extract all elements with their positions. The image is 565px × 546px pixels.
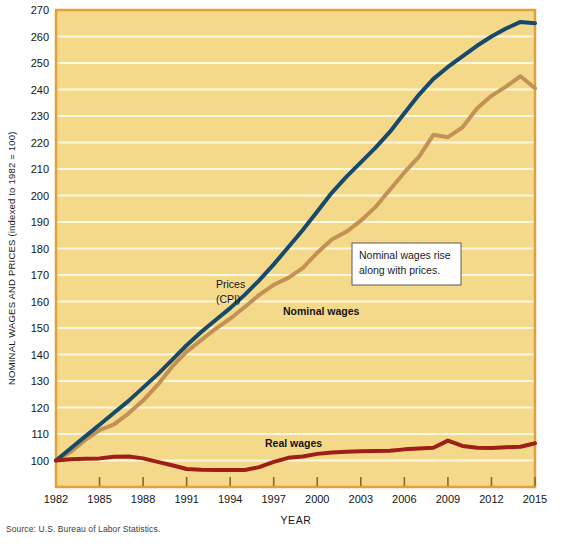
x-axis-title: YEAR [281,514,312,526]
callout-text-line2: along with prices. [359,264,440,276]
y-tick-label-180: 180 [31,243,49,255]
source-note: Source: U.S. Bureau of Labor Statistics. [6,524,160,534]
chart-figure: 1001101201301401501601701801902002102202… [0,0,565,546]
x-tick-label-1994: 1994 [218,493,242,505]
x-tick-label-1988: 1988 [131,493,155,505]
y-tick-label-240: 240 [31,84,49,96]
y-tick-label-160: 160 [31,296,49,308]
y-tick-label-170: 170 [31,269,49,281]
real-wages-series-label: Real wages [265,437,322,449]
x-tick-label-1997: 1997 [261,493,285,505]
y-tick-label-130: 130 [31,375,49,387]
y-tick-label-270: 270 [31,4,49,16]
x-tick-label-2015: 2015 [523,493,547,505]
callout-text-line1: Nominal wages rise [359,249,451,261]
x-axis-tick-labels: 1982198519881991199419972000200320062009… [44,493,547,505]
y-tick-label-190: 190 [31,216,49,228]
y-tick-label-210: 210 [31,163,49,175]
y-tick-label-220: 220 [31,137,49,149]
y-tick-label-250: 250 [31,57,49,69]
x-tick-label-1991: 1991 [174,493,198,505]
x-tick-label-2009: 2009 [436,493,460,505]
prices-series-label-line2: (CPI) [216,293,241,305]
x-tick-label-2006: 2006 [392,493,416,505]
prices-series-label-line1: Prices [216,278,245,290]
wages-prices-line-chart: 1001101201301401501601701801902002102202… [0,0,565,546]
y-tick-label-120: 120 [31,402,49,414]
callout-annotation: Nominal wages rise along with prices. [352,243,461,285]
x-tick-label-2003: 2003 [349,493,373,505]
y-axis-title: NOMINAL WAGES AND PRICES (indexed to 198… [6,131,17,385]
x-tick-label-1982: 1982 [44,493,68,505]
x-tick-label-2000: 2000 [305,493,329,505]
y-tick-label-200: 200 [31,190,49,202]
y-tick-label-150: 150 [31,322,49,334]
y-tick-label-110: 110 [31,428,49,440]
y-axis-tick-labels: 1001101201301401501601701801902002102202… [31,4,49,467]
y-tick-label-260: 260 [31,31,49,43]
nominal-wages-series-label: Nominal wages [283,305,360,317]
y-tick-label-140: 140 [31,349,49,361]
y-tick-label-100: 100 [31,455,49,467]
y-tick-label-230: 230 [31,110,49,122]
x-tick-label-1985: 1985 [87,493,111,505]
x-tick-label-2012: 2012 [479,493,503,505]
